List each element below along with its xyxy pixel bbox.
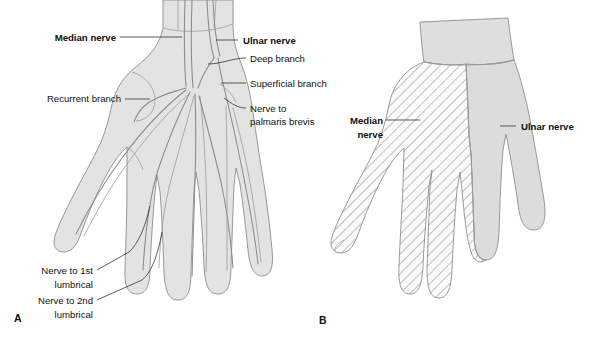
label-lumbrical-2-line2: lumbrical xyxy=(55,309,93,320)
panel-label-b: B xyxy=(319,314,327,326)
label-recurrent-branch: Recurrent branch xyxy=(47,93,121,104)
label-lumbrical-1-line2: lumbrical xyxy=(55,279,93,290)
hand-nerve-figure: Median nerve Ulnar nerve Deep branch Sup… xyxy=(0,0,594,347)
label-deep-branch: Deep branch xyxy=(250,53,305,64)
label-superficial-branch: Superficial branch xyxy=(250,78,327,89)
panel-label-a: A xyxy=(14,312,22,324)
wrist-cuff-b xyxy=(420,18,514,65)
label-median-nerve-a: Median nerve xyxy=(55,32,116,43)
label-median-nerve-b-line1: Median xyxy=(350,115,383,126)
label-lumbrical-1-line1: Nerve to 1st xyxy=(41,265,93,276)
label-nerve-palmaris-brevis-line2: palmaris brevis xyxy=(250,116,315,127)
label-nerve-palmaris-brevis-line1: Nerve to xyxy=(250,103,286,114)
label-ulnar-nerve-a: Ulnar nerve xyxy=(243,35,296,46)
label-ulnar-nerve-b: Ulnar nerve xyxy=(521,121,574,132)
label-median-nerve-b-line2: nerve xyxy=(357,129,383,140)
label-lumbrical-2-line1: Nerve to 2nd xyxy=(38,295,93,306)
